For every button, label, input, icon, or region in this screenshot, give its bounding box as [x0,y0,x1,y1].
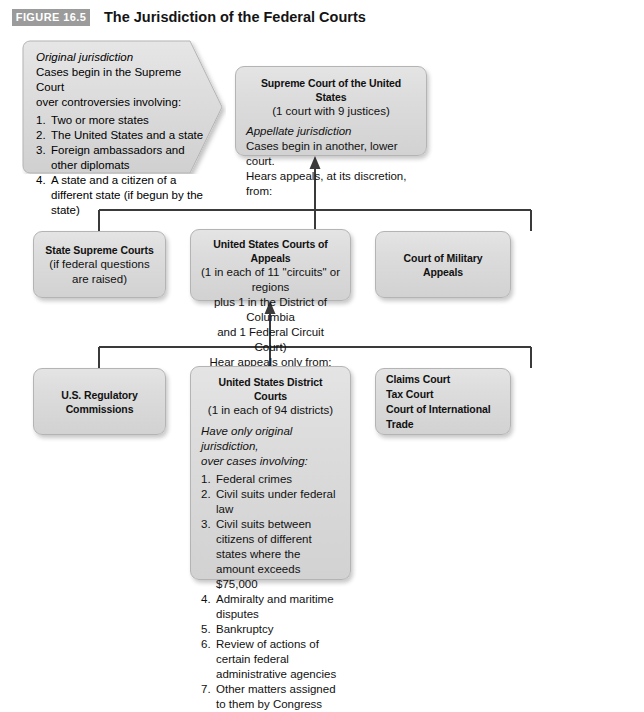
callout-list: 1.Two or more states 2.The United States… [36,113,208,218]
list-item-text: Two or more states [51,114,149,126]
courts-of-appeals-sub-3: and 1 Federal Circuit Court) [201,325,340,355]
list-item: 3.Foreign ambassadors and other diplomat… [36,143,208,173]
district-courts-subtitle: (1 in each of 94 districts) [201,403,340,418]
node-us-district-courts: United States District Courts (1 in each… [190,366,351,580]
list-item: 1.Federal crimes [201,472,340,487]
district-courts-list: 1.Federal crimes 2.Civil suits under fed… [201,472,340,712]
claims-court-label: Claims Court [386,372,500,387]
node-specialized-courts: Claims Court Tax Court Court of Internat… [375,368,511,435]
node-court-of-military-appeals: Court of Military Appeals [375,231,511,298]
list-item-text: Civil suits under federal law [216,488,336,515]
courts-of-appeals-sub-2: plus 1 in the District of Columbia [201,295,340,325]
node-courts-of-appeals: United States Courts of Appeals (1 in ea… [190,229,351,301]
list-item-text: Civil suits between citizens of differen… [216,518,312,590]
list-item-number: 3. [201,517,214,532]
list-item-number: 3. [36,143,49,158]
supreme-court-subtitle: (1 court with 9 justices) [246,104,416,119]
list-item: 3.Civil suits between citizens of differ… [201,517,340,592]
list-item-number: 4. [36,173,49,188]
callout-text: Original jurisdiction Cases begin in the… [36,50,208,218]
list-item: 4.A state and a citizen of a different s… [36,173,208,218]
list-item-text: Review of actions of certain federal adm… [216,638,336,680]
original-jurisdiction-callout: Original jurisdiction Cases begin in the… [22,40,226,174]
district-courts-italic-2: over cases involving: [201,454,340,469]
list-item: 4.Admiralty and maritime disputes [201,592,340,622]
supreme-court-line-1: Cases begin in another, lower court. [246,139,416,169]
figure-title: The Jurisdiction of the Federal Courts [104,8,366,27]
list-item: 1.Two or more states [36,113,208,128]
district-courts-title: United States District Courts [201,375,340,403]
node-supreme-court: Supreme Court of the United States (1 co… [235,66,427,156]
supreme-court-title: Supreme Court of the United States [246,76,416,104]
us-regulatory-commissions-title: U.S. Regulatory Commissions [44,388,155,416]
district-courts-italic-1: Have only original jurisdiction, [201,424,340,454]
list-item-number: 5. [201,622,214,637]
figure-number-badge: FIGURE 16.5 [12,9,90,26]
list-item-text: Foreign ambassadors and other diplomats [51,144,185,171]
list-item-text: Other matters assigned to them by Congre… [216,683,336,710]
court-of-international-trade-label: Court of International Trade [386,402,500,432]
figure-header: FIGURE 16.5 The Jurisdiction of the Fede… [0,8,644,32]
list-item-text: A state and a citizen of a different sta… [51,174,203,216]
callout-line-1: Cases begin in the Supreme Court [36,65,208,95]
node-state-supreme-courts: State Supreme Courts (if federal questio… [33,231,166,298]
list-item-number: 2. [36,128,49,143]
court-of-military-appeals-title: Court of Military Appeals [386,251,500,279]
state-supreme-courts-title: State Supreme Courts [44,243,155,257]
list-item-number: 6. [201,637,214,652]
list-item-number: 2. [201,487,214,502]
list-item-number: 1. [36,113,49,128]
courts-of-appeals-sub-1: (1 in each of 11 "circuits" or regions [201,265,340,295]
tax-court-label: Tax Court [386,387,500,402]
list-item-text: Bankruptcy [216,623,274,635]
list-item-text: Admiralty and maritime disputes [216,593,334,620]
list-item: 6.Review of actions of certain federal a… [201,637,340,682]
supreme-court-jurisdiction-label: Appellate jurisdiction [246,124,416,139]
supreme-court-line-2: Hears appeals, at its discretion, from: [246,169,416,199]
list-item: 5.Bankruptcy [201,622,340,637]
list-item: 7.Other matters assigned to them by Cong… [201,682,340,712]
list-item: 2.Civil suits under federal law [201,487,340,517]
list-item: 2.The United States and a state [36,128,208,143]
node-us-regulatory-commissions: U.S. Regulatory Commissions [33,368,166,435]
courts-of-appeals-title: United States Courts of Appeals [201,237,340,265]
list-item-text: Federal crimes [216,473,292,485]
list-item-number: 1. [201,472,214,487]
state-supreme-courts-subtitle: (if federal questions are raised) [44,257,155,287]
list-item-number: 7. [201,682,214,697]
list-item-text: The United States and a state [51,129,203,141]
callout-line-2: over controversies involving: [36,95,208,110]
list-item-number: 4. [201,592,214,607]
callout-heading: Original jurisdiction [36,50,208,65]
